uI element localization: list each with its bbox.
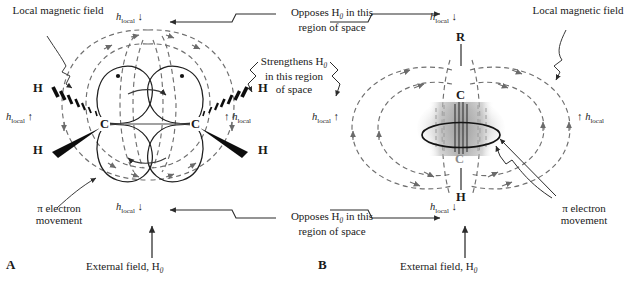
panel-a-electron-dot-left xyxy=(116,74,120,78)
panel-a-hlocal-top: hlocal ↓ xyxy=(116,10,143,26)
center-note: Strengthens H0 in this region of space xyxy=(248,55,340,95)
panel-b-hlocal-right: ↑ hlocal xyxy=(577,110,604,126)
arrow-down-icon: ↓ xyxy=(451,10,457,22)
panel-b-atom-h: H xyxy=(456,190,466,204)
panel-b-atom-c-bottom: C xyxy=(455,152,464,166)
arrow-down-icon: ↓ xyxy=(137,200,143,212)
panel-b-hlocal-top: hlocal ↓ xyxy=(430,10,457,26)
panel-a-hlocal-bottom: hlocal ↓ xyxy=(116,200,143,216)
panel-a-atom-h-bottom-left: H xyxy=(33,143,43,157)
arrow-up-icon: ↑ xyxy=(577,110,583,122)
panel-a-left-carbon-bonds xyxy=(52,87,100,158)
solid-wedge-right xyxy=(200,128,248,158)
arrow-up-icon: ↑ xyxy=(224,110,230,122)
solid-wedge-left xyxy=(52,128,100,158)
arrow-up-icon: ↑ xyxy=(333,110,339,122)
figure-canvas: Local magnetic field hlocal ↓ hlocal ↑ ↑… xyxy=(0,0,627,284)
panel-a-atom-c-left: C xyxy=(99,117,110,131)
hashed-wedge-left xyxy=(53,87,97,116)
panel-b-atom-r: R xyxy=(456,30,465,44)
panel-b-id: B xyxy=(318,258,327,273)
panel-b-local-field-label: Local magnetic field xyxy=(530,4,626,16)
opposes-top-label: Opposes H0 in this region of space xyxy=(272,6,392,34)
panel-b-external-field-label: External field, H0 xyxy=(400,260,477,275)
panel-b-local-field-leader xyxy=(554,30,566,80)
panel-a-hlocal-left: hlocal ↑ xyxy=(6,110,33,126)
panel-a-local-field-leader xyxy=(47,36,72,88)
panel-a-pi-electron-label: π electron movement xyxy=(16,202,102,227)
panel-a-local-field-label: Local magnetic field xyxy=(6,4,110,16)
panel-a-hlocal-right: ↑ hlocal xyxy=(224,110,251,126)
panel-a-atom-h-top-left: H xyxy=(33,81,43,95)
panel-b-pi-electron-label: π electron movement xyxy=(542,202,626,227)
panel-a-opposes-top-leader xyxy=(170,14,276,22)
opposes-bottom-label: Opposes H0 in this region of space xyxy=(272,210,392,238)
panel-a-atom-c-right: C xyxy=(190,117,201,131)
panel-a-external-field-label: External field, H0 xyxy=(86,260,163,275)
arrow-up-icon: ↑ xyxy=(27,110,33,122)
panel-b-pi-leader-2 xyxy=(496,146,552,198)
panel-a-atom-h-bottom-right: H xyxy=(258,143,268,157)
panel-a-opposes-bottom-leader xyxy=(170,210,276,218)
panel-b-hlocal-bottom: hlocal ↓ xyxy=(430,200,457,216)
arrow-down-icon: ↓ xyxy=(137,10,143,22)
panel-b-atom-c-top: C xyxy=(455,88,466,102)
diagram-vector-layer xyxy=(0,0,627,284)
panel-a-id: A xyxy=(6,258,15,273)
panel-a-electron-dot-right xyxy=(180,74,184,78)
panel-b-hlocal-left: hlocal ↑ xyxy=(312,110,339,126)
